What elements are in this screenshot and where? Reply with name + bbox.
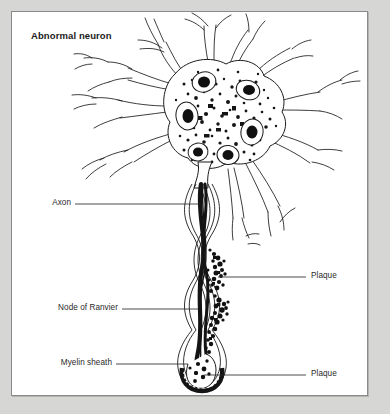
- figure-root: Abnormal neuron: [0, 0, 390, 414]
- leader-lines: [75, 204, 306, 375]
- label-axon: Axon: [52, 198, 71, 207]
- label-node-of-ranvier: Node of Ranvier: [58, 303, 118, 312]
- axon-fiber: [196, 184, 208, 383]
- label-plaque-lower: Plaque: [311, 369, 337, 378]
- figure-panel: Abnormal neuron: [11, 11, 368, 396]
- axon-terminal: [182, 354, 223, 391]
- label-plaque-upper: Plaque: [311, 271, 337, 280]
- label-myelin-sheath: Myelin sheath: [61, 358, 112, 367]
